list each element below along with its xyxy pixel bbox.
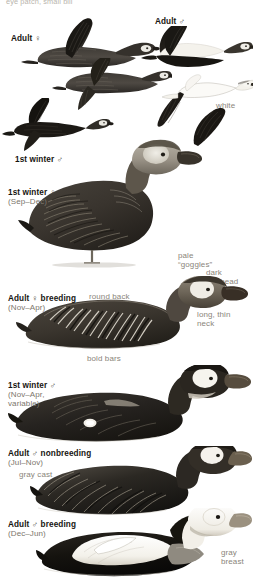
female-symbol-icon-2: ♀ (47, 187, 56, 197)
annotation-gray-cast: gray cast (19, 471, 52, 480)
caption-adult-male-flight-text: Adult (155, 17, 176, 26)
caption-first-winter-male-swimming: 1st winter ♂ (8, 381, 56, 390)
annotation-round-back: round back (89, 293, 130, 302)
caption-adult-male-breeding-suffix: breeding (38, 520, 76, 529)
caption-adult-male-nonbreeding: Adult ♂ nonbreeding (8, 449, 91, 458)
caption-adult-male-breeding-date: (Dec–Jun) (8, 530, 46, 539)
caption-adult-male-nonbreeding-date: (Jul–Nov) (8, 459, 43, 468)
illustration-first-winter-male-swimming (8, 365, 253, 451)
male-symbol-icon: ♂ (176, 16, 185, 26)
caption-adult-male-breeding-text: Adult (8, 520, 29, 529)
caption-first-winter-female: 1st winter ♀ (8, 188, 56, 197)
male-symbol-icon-3: ♂ (47, 380, 56, 390)
annotation-long-thin-neck: long, thin neck (197, 311, 230, 329)
caption-first-winter-male-swimming-text: 1st winter (8, 381, 47, 390)
caption-adult-female-flight: Adult ♀ (11, 34, 41, 43)
female-symbol-icon: ♀ (32, 33, 41, 43)
caption-adult-female-breeding-text: Adult (8, 294, 29, 303)
caption-first-winter-female-text: 1st winter (8, 188, 47, 197)
caption-first-winter-male-swimming-date: (Nov–Apr, variable) (8, 391, 44, 409)
field-guide-plate: eye patch, small bill (0, 0, 253, 587)
male-symbol-icon-5: ♂ (29, 519, 38, 529)
caption-adult-female-breeding-suffix: breeding (38, 294, 76, 303)
caption-adult-male-breeding: Adult ♂ breeding (8, 520, 76, 529)
caption-adult-female-breeding: Adult ♀ breeding (8, 294, 76, 303)
annotation-gray-breast: gray breast (221, 549, 244, 567)
annotation-bold-bars: bold bars (87, 355, 121, 364)
caption-adult-female-flight-text: Adult (11, 34, 32, 43)
caption-adult-female-breeding-date: (Nov–Apr) (8, 304, 45, 313)
caption-adult-male-nonbreeding-text: Adult (8, 449, 29, 458)
caption-adult-male-nonbreeding-suffix: nonbreeding (38, 449, 91, 458)
female-symbol-icon-3: ♀ (29, 293, 38, 303)
caption-adult-male-flight: Adult ♂ (155, 17, 185, 26)
male-symbol-icon-4: ♂ (29, 448, 38, 458)
cut-off-species-note: eye patch, small bill (6, 0, 73, 6)
caption-first-winter-female-date: (Sep–Dec) (8, 198, 47, 207)
